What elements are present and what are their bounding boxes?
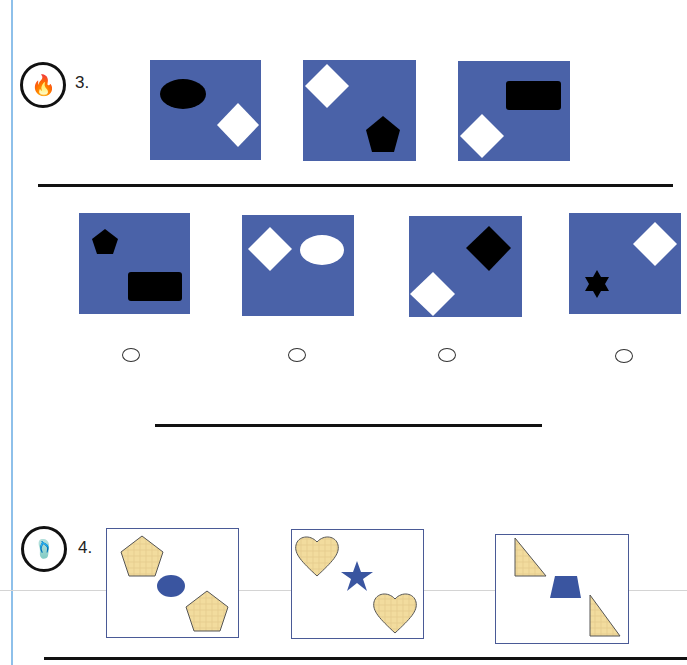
q3-option-d-panel[interactable] [569,213,681,314]
q4-sequence-frame-2 [291,529,424,639]
diamond-shape [248,227,292,271]
diamond-shape [633,222,677,266]
ellipse-shape [300,235,344,265]
notebook-margin-line [11,0,13,665]
star-shape [341,561,373,591]
q3-sequence-panel-3 [458,61,570,161]
q3-sequence-panel-1 [150,60,261,160]
trapezoid-shape [550,576,581,598]
heart-shape [374,594,417,633]
ellipse-shape [160,79,206,109]
ellipse-shape [157,575,185,597]
campfire-icon: 🔥 [31,73,56,97]
flip-flops-icon: 🩴 [33,538,55,560]
q4-sequence-frame-1 [106,528,239,638]
q3-option-a-panel[interactable] [79,213,190,314]
diamond-shape [460,114,504,158]
q3-option-c-radio[interactable] [438,348,456,362]
q3-sequence-panel-2 [303,60,416,161]
right-triangle-shape [515,538,546,576]
diamond-shape [410,272,455,316]
heart-shape [296,537,339,576]
question-4-badge: 🩴 [21,526,67,572]
q3-option-a-radio[interactable] [122,348,140,362]
diamond-shape [305,64,349,108]
q3-option-c-panel[interactable] [409,216,522,317]
q4-divider-rule [44,657,687,660]
pentagon-shape [366,116,400,152]
pentagon-shape [121,536,163,576]
pentagon-shape [186,591,228,631]
question-4-number: 4. [78,538,92,558]
right-triangle-shape [590,595,620,636]
rectangle-shape [506,81,561,110]
question-3-number: 3. [75,73,89,93]
q3-option-b-radio[interactable] [288,348,306,362]
question-3-badge: 🔥 [20,62,66,108]
six-point-star-shape [585,270,609,298]
q4-sequence-frame-3 [495,534,629,644]
rectangle-shape [128,272,182,301]
pentagon-shape [92,229,118,254]
q3-option-d-radio[interactable] [615,349,633,363]
q3-option-b-panel[interactable] [242,215,354,316]
diamond-shape [466,226,511,271]
q3-divider-rule [38,184,673,187]
diamond-shape [217,103,259,147]
q3-answer-line[interactable] [155,424,542,427]
